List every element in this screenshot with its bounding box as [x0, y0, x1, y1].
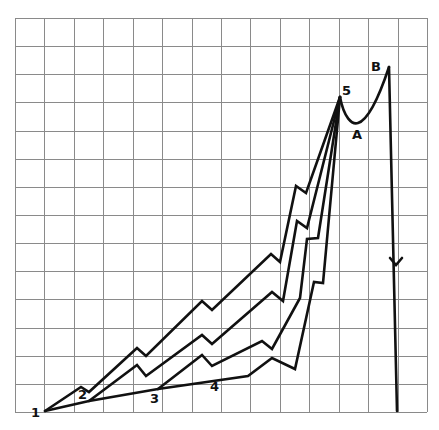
path-2-to-5	[89, 97, 340, 401]
label-point-2: 2	[78, 387, 87, 402]
diagram-canvas: 1 2 3 4 5 A B	[0, 0, 439, 430]
label-point-4: 4	[210, 379, 219, 394]
down-arrow-icon	[390, 258, 402, 265]
label-point-1: 1	[31, 405, 40, 420]
label-point-5: 5	[342, 83, 351, 98]
drop-line-from-b	[389, 67, 397, 411]
label-point-3: 3	[150, 391, 159, 406]
grid	[15, 18, 428, 413]
label-point-b: B	[371, 59, 381, 74]
label-point-a: A	[352, 127, 362, 142]
